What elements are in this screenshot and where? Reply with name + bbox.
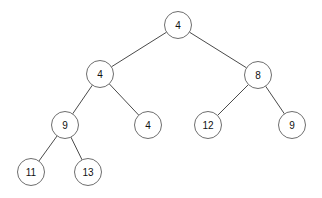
node-circle[interactable] (165, 12, 192, 39)
tree-edge-n1-n3 (73, 85, 93, 114)
tree-node-8-n2[interactable]: 8 (245, 62, 272, 89)
tree-edge-n3-n8 (71, 137, 82, 160)
node-circle[interactable] (52, 112, 79, 139)
tree-node-12-n5[interactable]: 12 (195, 112, 222, 139)
binary-tree-diagram: 448941291113 (0, 0, 322, 198)
node-circle[interactable] (87, 61, 114, 88)
tree-node-9-n3[interactable]: 9 (52, 112, 79, 139)
node-circle[interactable] (245, 62, 272, 89)
node-circle[interactable] (18, 159, 45, 186)
tree-node-4-n0[interactable]: 4 (165, 12, 192, 39)
tree-svg-canvas: 448941291113 (0, 0, 322, 198)
node-circle[interactable] (195, 112, 222, 139)
tree-node-9-n6[interactable]: 9 (279, 112, 306, 139)
tree-edges-group (39, 32, 285, 161)
node-circle[interactable] (75, 159, 102, 186)
tree-node-4-n4[interactable]: 4 (135, 112, 162, 139)
tree-node-4-n1[interactable]: 4 (87, 61, 114, 88)
tree-edge-n0-n1 (111, 32, 166, 67)
tree-edge-n0-n2 (189, 32, 246, 68)
tree-nodes-group: 448941291113 (18, 12, 306, 186)
tree-node-13-n8[interactable]: 13 (75, 159, 102, 186)
node-circle[interactable] (279, 112, 306, 139)
tree-edge-n2-n6 (266, 86, 285, 114)
node-circle[interactable] (135, 112, 162, 139)
tree-edge-n3-n7 (39, 136, 57, 161)
tree-edge-n2-n5 (218, 85, 249, 116)
tree-edge-n1-n4 (109, 84, 139, 115)
tree-node-11-n7[interactable]: 11 (18, 159, 45, 186)
